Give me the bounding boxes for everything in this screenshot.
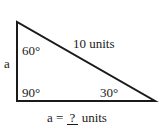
answer-blank: ? xyxy=(67,112,79,125)
angle-60-label: 60° xyxy=(22,44,40,57)
angle-30-label: 30° xyxy=(100,86,118,99)
right-triangle-diagram: a 10 units 60° 90° 30° a = ? units xyxy=(0,0,162,129)
angle-90-label: 90° xyxy=(22,86,40,99)
hypotenuse-label: 10 units xyxy=(73,37,115,50)
question-caption: a = ? units xyxy=(47,111,107,125)
caption-suffix: units xyxy=(78,110,107,125)
caption-prefix: a = xyxy=(47,110,67,125)
side-a-label: a xyxy=(4,57,10,70)
